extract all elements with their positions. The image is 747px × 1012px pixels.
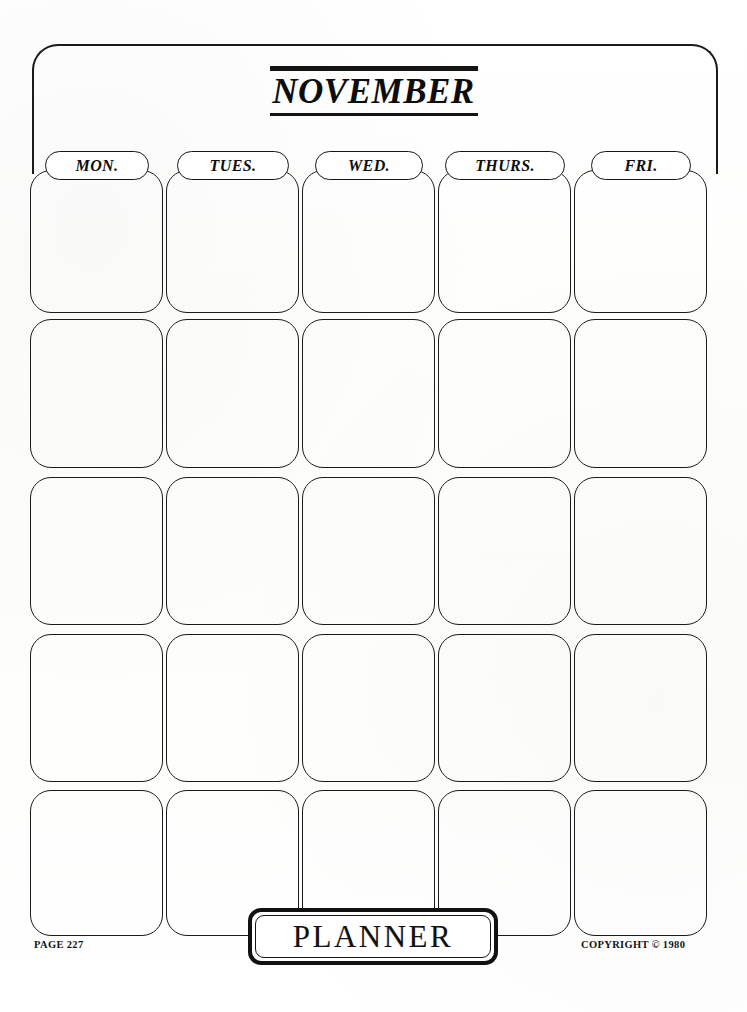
day-header-pill-thursday: THURS. xyxy=(445,151,565,180)
day-cell-friday-week5[interactable] xyxy=(574,790,707,936)
day-cell-tuesday-week2[interactable] xyxy=(166,319,299,468)
day-header-pill-friday: FRI. xyxy=(591,151,691,180)
planner-badge: PLANNER xyxy=(248,908,498,965)
day-cell-monday-week3[interactable] xyxy=(30,477,163,625)
day-header-label-tuesday: TUES. xyxy=(210,157,257,175)
day-cell-monday-week4[interactable] xyxy=(30,634,163,782)
day-cell-friday-week1[interactable] xyxy=(574,170,707,313)
day-cell-thursday-week3[interactable] xyxy=(438,477,571,625)
day-header-label-wednesday: WED. xyxy=(348,157,390,175)
day-cell-monday-week1[interactable] xyxy=(30,170,163,313)
day-header-pill-wednesday: WED. xyxy=(315,151,423,180)
day-cell-friday-week2[interactable] xyxy=(574,319,707,468)
day-cell-wednesday-week2[interactable] xyxy=(302,319,435,468)
day-cell-wednesday-week4[interactable] xyxy=(302,634,435,782)
day-cell-tuesday-week3[interactable] xyxy=(166,477,299,625)
day-header-label-monday: MON. xyxy=(76,157,119,175)
day-cell-wednesday-week3[interactable] xyxy=(302,477,435,625)
day-header-label-friday: FRI. xyxy=(624,157,657,175)
day-header-label-thursday: THURS. xyxy=(475,157,535,175)
copyright-notice: COPYRIGHT © 1980 xyxy=(581,939,685,950)
day-cell-monday-week2[interactable] xyxy=(30,319,163,468)
day-header-pill-monday: MON. xyxy=(45,151,149,180)
day-cell-tuesday-week1[interactable] xyxy=(166,170,299,313)
day-cell-thursday-week4[interactable] xyxy=(438,634,571,782)
day-header-pill-tuesday: TUES. xyxy=(177,151,289,180)
planner-badge-inner-border: PLANNER xyxy=(255,915,491,958)
planner-badge-label: PLANNER xyxy=(293,919,453,955)
day-cell-friday-week4[interactable] xyxy=(574,634,707,782)
day-cell-friday-week3[interactable] xyxy=(574,477,707,625)
day-cell-wednesday-week1[interactable] xyxy=(302,170,435,313)
planner-page: NOVEMBER MON.TUES.WED.THURS.FRI. PLANNER… xyxy=(0,0,747,1012)
page-number: PAGE 227 xyxy=(34,939,84,950)
day-cell-thursday-week1[interactable] xyxy=(438,170,571,313)
day-cell-tuesday-week4[interactable] xyxy=(166,634,299,782)
calendar-grid: MON.TUES.WED.THURS.FRI. xyxy=(0,0,747,1012)
day-cell-monday-week5[interactable] xyxy=(30,790,163,936)
day-cell-thursday-week2[interactable] xyxy=(438,319,571,468)
